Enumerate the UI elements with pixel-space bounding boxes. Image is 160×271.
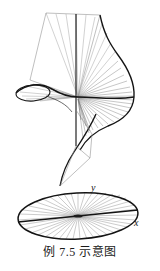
axis-label-x: x xyxy=(134,218,138,228)
base-ellipse-group xyxy=(17,190,139,242)
figure-container: y x 例 7.5 示意图 xyxy=(0,0,160,271)
surface-group xyxy=(15,13,134,186)
axis-label-y: y xyxy=(91,183,95,193)
figure-caption: 例 7.5 示意图 xyxy=(0,244,160,260)
figure-illustration xyxy=(0,0,160,271)
base-ellipse-center-node xyxy=(74,214,83,217)
